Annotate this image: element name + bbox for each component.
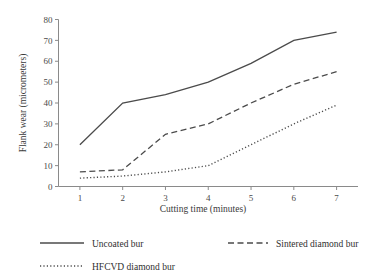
x-tick-label: 6 [292, 193, 297, 203]
series-line-hfcvd-diamond-bur [80, 105, 337, 178]
y-tick-label: 30 [44, 119, 54, 129]
x-tick-marks [80, 187, 337, 191]
legend-label-sintered-diamond-bur: Sintered diamond bur [276, 239, 359, 249]
y-tick-label: 70 [44, 36, 54, 46]
x-tick-label: 1 [78, 193, 83, 203]
y-axis-title: Flank wear (micrometers) [18, 54, 29, 153]
x-tick-label: 2 [120, 193, 125, 203]
legend-label-uncoated-bur: Uncoated bur [92, 239, 144, 249]
series-line-sintered-diamond-bur [80, 72, 337, 172]
y-tick-label: 10 [44, 161, 54, 171]
y-tick-labels: 01020304050607080 [44, 15, 54, 192]
y-tick-label: 50 [44, 77, 54, 87]
y-tick-label: 20 [44, 140, 54, 150]
y-tick-label: 60 [44, 56, 54, 66]
y-tick-marks [55, 20, 59, 187]
series-line-uncoated-bur [80, 32, 337, 145]
flank-wear-line-chart: 01020304050607080 1234567 Cutting time (… [0, 0, 381, 278]
x-tick-labels: 1234567 [78, 193, 340, 203]
chart-figure: 01020304050607080 1234567 Cutting time (… [0, 0, 381, 278]
x-tick-label: 4 [206, 193, 211, 203]
x-tick-label: 7 [334, 193, 339, 203]
series-group [80, 32, 337, 178]
y-tick-label: 0 [48, 182, 53, 192]
legend-label-hfcvd-diamond-bur: HFCVD diamond bur [92, 262, 176, 272]
chart-legend: Uncoated bur Sintered diamond bur HFCVD … [40, 239, 359, 272]
x-tick-label: 5 [249, 193, 254, 203]
y-tick-label: 40 [44, 98, 54, 108]
x-axis-title: Cutting time (minutes) [160, 204, 247, 215]
y-tick-label: 80 [44, 15, 54, 25]
x-tick-label: 3 [163, 193, 168, 203]
